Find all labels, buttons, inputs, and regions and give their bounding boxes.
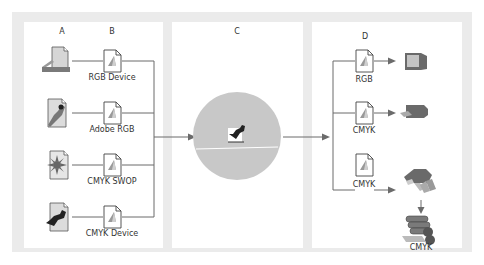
monitor-icon xyxy=(403,50,429,76)
profile-doc-icon xyxy=(355,101,374,129)
profile-label: Adobe RGB xyxy=(89,125,134,134)
profile-doc-icon xyxy=(355,153,374,181)
output-profile-label: CMYK xyxy=(353,180,376,189)
profile-label: RGB Device xyxy=(88,73,135,82)
profile-label: CMYK Device xyxy=(86,229,139,238)
desktop-printer-icon xyxy=(398,101,430,127)
rgb-image-icon xyxy=(44,97,72,133)
profile-label: CMYK SWOP xyxy=(87,177,136,186)
proof-printer-icon xyxy=(400,167,440,201)
press-label: CMYK xyxy=(410,243,433,252)
scanner-icon xyxy=(40,45,72,79)
cmyk-image-icon xyxy=(44,201,72,237)
output-profile-label: CMYK xyxy=(353,126,376,135)
profile-connection-space-icon xyxy=(226,122,250,150)
swop-image-icon xyxy=(44,149,72,185)
output-profile-label: RGB xyxy=(355,75,372,84)
profile-doc-icon xyxy=(355,49,374,77)
